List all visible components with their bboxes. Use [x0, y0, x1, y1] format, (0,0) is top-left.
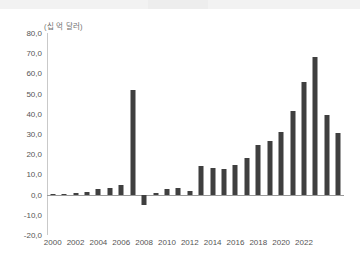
y-axis-tick-label: 50,0: [26, 89, 42, 98]
bar-slot[interactable]: [150, 33, 161, 235]
bar[interactable]: [302, 82, 307, 194]
bar[interactable]: [153, 193, 158, 194]
bar-slot[interactable]: [275, 33, 286, 235]
bar[interactable]: [62, 194, 67, 195]
window-top-strip: [0, 0, 360, 9]
x-axis-tick-label: 2006: [112, 238, 130, 247]
y-axis-tick-label: 20,0: [26, 150, 42, 159]
bar[interactable]: [176, 188, 181, 195]
bar-slot[interactable]: [196, 33, 207, 235]
bar[interactable]: [279, 132, 284, 195]
bar-series: [47, 33, 344, 235]
bar-slot[interactable]: [138, 33, 149, 235]
bar-slot[interactable]: [81, 33, 92, 235]
bar[interactable]: [119, 185, 124, 194]
bar[interactable]: [256, 145, 261, 194]
bar[interactable]: [84, 192, 89, 194]
x-axis-tick-label: 2008: [135, 238, 153, 247]
x-axis-tick-label: 2022: [295, 238, 313, 247]
x-axis-tick-label: 2020: [272, 238, 290, 247]
bar-slot[interactable]: [58, 33, 69, 235]
bar-slot[interactable]: [207, 33, 218, 235]
x-axis-tick-label: 2010: [158, 238, 176, 247]
y-axis-tick-label: 80,0: [26, 29, 42, 38]
x-axis-tick-label: 2002: [67, 238, 85, 247]
top-strip-marker: [148, 0, 208, 9]
y-axis-tick-label: 30,0: [26, 130, 42, 139]
bar-slot[interactable]: [321, 33, 332, 235]
bar-slot[interactable]: [127, 33, 138, 235]
bar-slot[interactable]: [298, 33, 309, 235]
bar[interactable]: [233, 165, 238, 194]
y-axis-tick-label: 0,0: [31, 190, 42, 199]
y-axis-tick-label: 70,0: [26, 49, 42, 58]
y-axis-tick-label: 10,0: [26, 170, 42, 179]
y-axis-tick-label: 60,0: [26, 69, 42, 78]
bar[interactable]: [324, 115, 329, 195]
y-axis-tick-label: -20,0: [24, 231, 42, 240]
bar[interactable]: [187, 191, 192, 194]
x-axis-ticks: 2000200220042006200820102012201420162018…: [47, 238, 344, 252]
bar[interactable]: [96, 189, 101, 194]
x-axis-tick-label: 2016: [227, 238, 245, 247]
bar[interactable]: [210, 168, 215, 194]
bar[interactable]: [142, 195, 147, 205]
y-axis-unit-label: (십 억 달러): [44, 20, 83, 31]
x-axis-tick-label: 2004: [89, 238, 107, 247]
bar[interactable]: [244, 158, 249, 194]
bar-slot[interactable]: [116, 33, 127, 235]
bar-slot[interactable]: [218, 33, 229, 235]
bar-slot[interactable]: [70, 33, 81, 235]
bar[interactable]: [313, 57, 318, 194]
bar-slot[interactable]: [230, 33, 241, 235]
bar-slot[interactable]: [93, 33, 104, 235]
bar-slot[interactable]: [161, 33, 172, 235]
bar-slot[interactable]: [264, 33, 275, 235]
bar-slot[interactable]: [253, 33, 264, 235]
bar[interactable]: [222, 169, 227, 194]
bar[interactable]: [73, 193, 78, 195]
x-axis-tick-label: 2018: [249, 238, 267, 247]
y-axis-tick-label: 40,0: [26, 109, 42, 118]
plot-area: 80,070,060,050,040,030,020,010,00,0-10,0…: [47, 33, 344, 235]
bar[interactable]: [164, 189, 169, 195]
bar-slot[interactable]: [184, 33, 195, 235]
bar[interactable]: [107, 188, 112, 195]
bar-slot[interactable]: [287, 33, 298, 235]
bar[interactable]: [290, 111, 295, 195]
bar[interactable]: [130, 90, 135, 195]
bar[interactable]: [267, 141, 272, 195]
x-axis-tick-label: 2014: [204, 238, 222, 247]
x-axis-tick-label: 2012: [181, 238, 199, 247]
bar-slot[interactable]: [104, 33, 115, 235]
bar-slot[interactable]: [241, 33, 252, 235]
bar-slot[interactable]: [47, 33, 58, 235]
bar-slot[interactable]: [310, 33, 321, 235]
bar[interactable]: [50, 194, 55, 195]
chart-page: (십 억 달러) 80,070,060,050,040,030,020,010,…: [0, 0, 360, 271]
x-axis-tick-label: 2000: [44, 238, 62, 247]
bar[interactable]: [199, 166, 204, 194]
bar-slot[interactable]: [333, 33, 344, 235]
bar-slot[interactable]: [173, 33, 184, 235]
bar[interactable]: [336, 133, 341, 195]
y-axis-tick-label: -10,0: [24, 210, 42, 219]
